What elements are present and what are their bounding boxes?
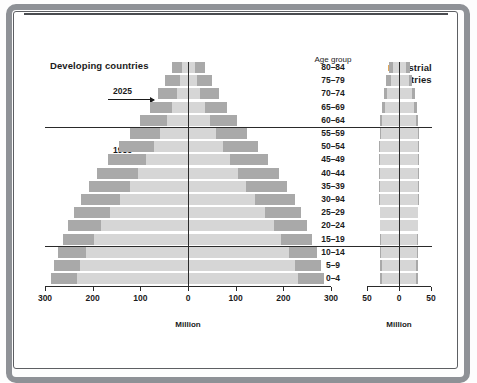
reference-rule-0 xyxy=(45,127,432,128)
bar-developing-men-1985-50–54 xyxy=(154,141,188,152)
bar-industrial-women-1985-40–44 xyxy=(399,168,418,179)
x-ticklabel-0-1: 200 xyxy=(80,293,106,303)
bar-developing-men-1985-0–4 xyxy=(77,273,188,284)
bar-developing-men-1985-45–49 xyxy=(146,154,188,165)
age-group-label-25–29: 25–29 xyxy=(303,207,363,218)
bar-industrial-men-1985-5–9 xyxy=(382,260,399,271)
bar-developing-women-1985-0–4 xyxy=(188,273,298,284)
bar-developing-women-1985-20–24 xyxy=(188,220,274,231)
x-tick-1-0 xyxy=(367,287,368,291)
bar-developing-men-1985-30–94 xyxy=(120,194,188,205)
x-ticklabel-1-1: 0 xyxy=(388,293,410,303)
bar-developing-men-1985-60–64 xyxy=(167,115,188,126)
bar-industrial-women-1985-30–94 xyxy=(399,194,418,205)
bar-industrial-men-1985-25–29 xyxy=(380,207,399,218)
bar-industrial-men-1985-50–54 xyxy=(380,141,399,152)
bar-industrial-men-1985-55–59 xyxy=(381,128,399,139)
x-tick-1-1 xyxy=(399,287,400,291)
age-group-label-15–19: 15–19 xyxy=(303,234,363,245)
age-group-label-50–54: 50–54 xyxy=(303,141,363,152)
bar-industrial-women-1985-15–19 xyxy=(399,234,417,245)
bar-developing-men-1985-15–19 xyxy=(94,234,188,245)
age-group-label-10–14: 10–14 xyxy=(303,247,363,258)
bar-developing-women-1985-45–49 xyxy=(188,154,230,165)
bar-developing-women-1985-15–19 xyxy=(188,234,281,245)
bar-industrial-men-1985-30–94 xyxy=(380,194,399,205)
bar-developing-men-1985-20–24 xyxy=(101,220,188,231)
bar-developing-men-1985-10–14 xyxy=(86,247,188,258)
bar-developing-women-1985-5–9 xyxy=(188,260,295,271)
bar-developing-men-1985-65–69 xyxy=(172,102,188,113)
zero-line-1 xyxy=(399,62,400,286)
x-tick-0-4 xyxy=(236,287,237,291)
x-ticklabel-0-2: 100 xyxy=(127,293,153,303)
bar-industrial-women-1985-45–49 xyxy=(399,154,418,165)
bar-industrial-women-1985-5–9 xyxy=(399,260,416,271)
bar-developing-women-1985-40–44 xyxy=(188,168,238,179)
age-group-label-65–69: 65–69 xyxy=(303,102,363,113)
right-axis-title: Million xyxy=(369,320,429,329)
bar-industrial-men-1985-10–14 xyxy=(381,247,399,258)
age-group-label-80–84: 80–84 xyxy=(303,62,363,73)
bar-developing-women-1985-70–74 xyxy=(188,88,200,99)
bar-developing-men-1985-35–39 xyxy=(130,181,188,192)
bar-developing-women-1985-80–84 xyxy=(188,62,195,73)
x-ticklabel-0-4: 100 xyxy=(223,293,249,303)
bar-developing-men-1985-55–59 xyxy=(160,128,188,139)
annotation-2025-arrow xyxy=(108,99,154,100)
bar-industrial-women-1985-60–64 xyxy=(399,115,416,126)
age-group-label-55–59: 55–59 xyxy=(303,128,363,139)
bar-industrial-men-1985-20–24 xyxy=(380,220,399,231)
bar-industrial-women-1985-0–4 xyxy=(399,273,416,284)
bar-industrial-men-1985-70–74 xyxy=(387,88,399,99)
age-group-label-75–79: 75–79 xyxy=(303,75,363,86)
bar-developing-women-1985-50–54 xyxy=(188,141,223,152)
age-group-label-40–44: 40–44 xyxy=(303,168,363,179)
bar-industrial-women-1985-55–59 xyxy=(399,128,418,139)
bar-industrial-women-1985-25–29 xyxy=(399,207,418,218)
bar-industrial-men-1985-75–79 xyxy=(391,75,399,86)
bar-industrial-men-1985-0–4 xyxy=(382,273,399,284)
bar-developing-women-1985-30–94 xyxy=(188,194,255,205)
bar-developing-men-1985-75–79 xyxy=(180,75,188,86)
bar-industrial-women-1985-65–69 xyxy=(399,102,414,113)
bar-industrial-women-1985-50–54 xyxy=(399,141,418,152)
left-axis-title: Million xyxy=(158,320,218,329)
x-tick-0-5 xyxy=(283,287,284,291)
age-group-label-70–74: 70–74 xyxy=(303,88,363,99)
zero-line-0 xyxy=(188,62,189,286)
bar-industrial-men-1985-65–69 xyxy=(385,102,399,113)
bar-developing-women-1985-60–64 xyxy=(188,115,210,126)
bar-industrial-men-1985-35–39 xyxy=(380,181,399,192)
bar-developing-men-1985-70–74 xyxy=(177,88,188,99)
x-tick-1-2 xyxy=(431,287,432,291)
bar-industrial-men-1985-40–44 xyxy=(380,168,399,179)
bar-industrial-women-1985-35–39 xyxy=(399,181,418,192)
bar-developing-women-1985-25–29 xyxy=(188,207,265,218)
bar-developing-women-1985-35–39 xyxy=(188,181,246,192)
bar-developing-men-1985-40–44 xyxy=(138,168,188,179)
bar-industrial-men-1985-45–49 xyxy=(380,154,399,165)
age-group-label-45–49: 45–49 xyxy=(303,154,363,165)
x-tick-0-6 xyxy=(331,287,332,291)
age-group-label-20–24: 20–24 xyxy=(303,220,363,231)
age-group-label-35–39: 35–39 xyxy=(303,181,363,192)
x-tick-0-3 xyxy=(188,287,189,291)
bar-industrial-women-1985-70–74 xyxy=(399,88,412,99)
bar-industrial-women-1985-10–14 xyxy=(399,247,417,258)
annotation-2025-label: 2025 xyxy=(113,86,132,96)
age-group-label-0–4: 0–4 xyxy=(303,273,363,284)
age-group-label-60–64: 60–64 xyxy=(303,115,363,126)
age-group-label-5–9: 5–9 xyxy=(303,260,363,271)
x-tick-0-1 xyxy=(93,287,94,291)
x-ticklabel-0-0: 300 xyxy=(32,293,58,303)
bar-industrial-men-1985-15–19 xyxy=(381,234,399,245)
x-tick-0-2 xyxy=(140,287,141,291)
reference-rule-1 xyxy=(45,246,432,247)
age-group-label-30–94: 30–94 xyxy=(303,194,363,205)
bar-industrial-women-1985-80–84 xyxy=(399,62,406,73)
bar-developing-women-1985-10–14 xyxy=(188,247,289,258)
bar-developing-women-1985-55–59 xyxy=(188,128,216,139)
x-ticklabel-0-6: 300 xyxy=(318,293,344,303)
